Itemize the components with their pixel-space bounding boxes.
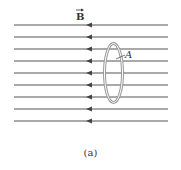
arrow-left-icon	[86, 119, 92, 124]
arrow-left-icon	[86, 35, 92, 40]
arrow-left-icon	[86, 59, 92, 64]
arrow-left-icon	[86, 95, 92, 100]
field-label: B	[76, 11, 84, 22]
arrow-left-icon	[86, 71, 92, 76]
arrowheads	[86, 23, 92, 124]
arrow-left-icon	[86, 47, 92, 52]
arrow-left-icon	[86, 107, 92, 112]
arrow-left-icon	[86, 23, 92, 28]
loop-label: A	[124, 49, 132, 60]
magnetic-field-diagram: A B	[0, 0, 181, 170]
figure-caption: (a)	[0, 147, 181, 158]
arrow-left-icon	[86, 83, 92, 88]
